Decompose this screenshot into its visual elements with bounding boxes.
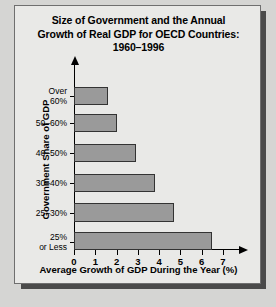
category-label-40-50: 40–50% [14,148,67,158]
chart-title-line-1: Size of Government and the Annual [15,14,261,28]
bar-over-60 [74,87,108,105]
x-axis-tick [159,250,160,255]
x-axis-tick [202,250,203,255]
x-axis-tick [117,250,118,255]
chart-title: Size of Government and the Annual Growth… [15,14,261,55]
bar-25-or-less [74,232,212,250]
category-label-over-60: Over 60% [14,86,67,106]
category-label-line: 30–40% [14,178,67,188]
x-axis-tick [74,250,75,255]
figure-root: Size of Government and the Annual Growth… [0,0,276,307]
category-label-25-or-less: 25% or Less [14,232,67,252]
category-label-line: or Less [14,242,67,252]
category-label-30-40: 30–40% [14,178,67,188]
category-label-line: 60% [14,96,67,106]
category-label-line: 40–50% [14,148,67,158]
category-label-line: 50–60% [14,118,67,128]
x-axis-tick [223,250,224,255]
x-axis-arrow-icon [239,246,248,254]
chart-panel: Size of Government and the Annual Growth… [14,5,261,284]
y-axis-arrow-icon [71,56,79,65]
x-axis-tick [138,250,139,255]
category-label-line: 25% [14,232,67,242]
bar-40-50 [74,144,136,162]
bar-25-30 [74,203,174,222]
category-label-25-30: 25–30% [14,208,67,218]
x-axis-tick [95,250,96,255]
category-label-50-60: 50–60% [14,118,67,128]
x-axis-tick [180,250,181,255]
category-label-line: 25–30% [14,208,67,218]
bar-30-40 [74,174,155,192]
category-label-line: Over [14,86,67,96]
x-axis-title: Average Growth of GDP During the Year (%… [15,264,261,275]
chart-title-line-3: 1960–1996 [15,41,261,55]
bar-50-60 [74,114,117,132]
chart-title-line-2: Growth of Real GDP for OECD Countries: [15,28,261,42]
